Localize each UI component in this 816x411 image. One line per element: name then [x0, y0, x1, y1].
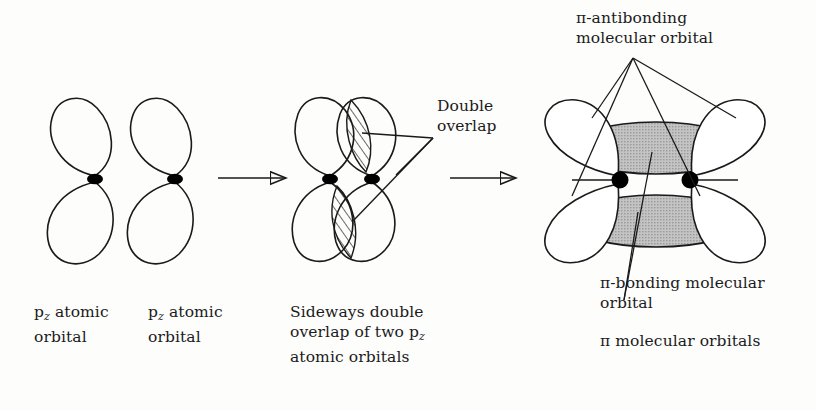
pi-outer-lobe-upper-right [691, 100, 764, 176]
caption-pz-2-symbol: p [148, 303, 158, 321]
p-orbital-a [47, 98, 113, 264]
caption-mid-subscript: z [419, 330, 425, 343]
p-lobe-b-lower [127, 182, 193, 264]
pi-outer-lobe-lower-right [691, 184, 765, 263]
nucleus-dot-b [167, 174, 183, 184]
caption-pz-atomic-orbital-1: pz atomic orbital [34, 302, 109, 347]
pi-outer-lobe-upper-left [545, 100, 618, 176]
overlap-region-upper [347, 100, 371, 172]
caption-pi-bonding-molecular-orbital: π-bonding molecular orbital [600, 273, 765, 313]
p-orbital-b [127, 98, 193, 264]
p-lobe-b-upper [131, 98, 192, 176]
pi-outer-lobe-lower-left [545, 184, 619, 263]
caption-pi-molecular-orbitals: π molecular orbitals [600, 331, 760, 351]
caption-double-overlap: Double overlap [437, 96, 497, 136]
nucleus-dot-d [364, 174, 380, 184]
caption-sideways-double-overlap: Sideways doubleoverlap of two pzatomic o… [290, 302, 425, 367]
stage-sideways-overlap [292, 98, 433, 262]
stage-pi-molecular-orbitals [545, 58, 765, 300]
nucleus-dot-a [87, 174, 103, 184]
nucleus-dot-e [612, 172, 629, 189]
caption-mid-line1: Sideways double [290, 303, 424, 321]
orbital-overlap-figure: pz atomic orbital pz atomic orbital Side… [0, 0, 816, 411]
overlap-lobe-c-upper [295, 98, 354, 176]
caption-mid-line3: atomic orbitals [290, 348, 410, 366]
p-lobe-a-lower [47, 182, 113, 264]
caption-pi-antibonding-molecular-orbital: π-antibonding molecular orbital [576, 8, 713, 48]
caption-pz-1-symbol: p [34, 303, 44, 321]
p-lobe-a-upper [51, 98, 112, 176]
caption-pz-atomic-orbital-2: pz atomic orbital [148, 302, 223, 347]
caption-mid-line2: overlap of two p [290, 323, 419, 341]
nucleus-dot-c [322, 174, 338, 184]
